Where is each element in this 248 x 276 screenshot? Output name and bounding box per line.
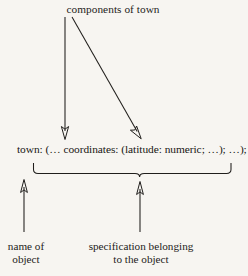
connector-layer [0,0,248,276]
specification-belonging-label-line1: specification belonging [89,240,194,252]
name-of-object-label-line1: name of [8,240,44,252]
underbrace-icon [34,163,232,177]
components-of-town-label: components of town [0,3,248,16]
diagram-figure: components of town town: (… coordinates:… [0,0,248,276]
vertical-arrow-to-component-name-icon [61,17,68,140]
specification-belonging-label: specification belonging to the object [78,240,204,266]
diagonal-arrow-to-component-value-icon [72,17,141,139]
arrow-to-object-name-icon [21,180,28,233]
specification-belonging-label-line2: to the object [78,253,204,266]
name-of-object-label-line2: object [0,253,52,266]
arrow-to-specification-icon [137,182,144,233]
name-of-object-label: name of object [0,240,52,266]
specification-line: town: (… coordinates: (latitude: numeric… [17,143,247,156]
